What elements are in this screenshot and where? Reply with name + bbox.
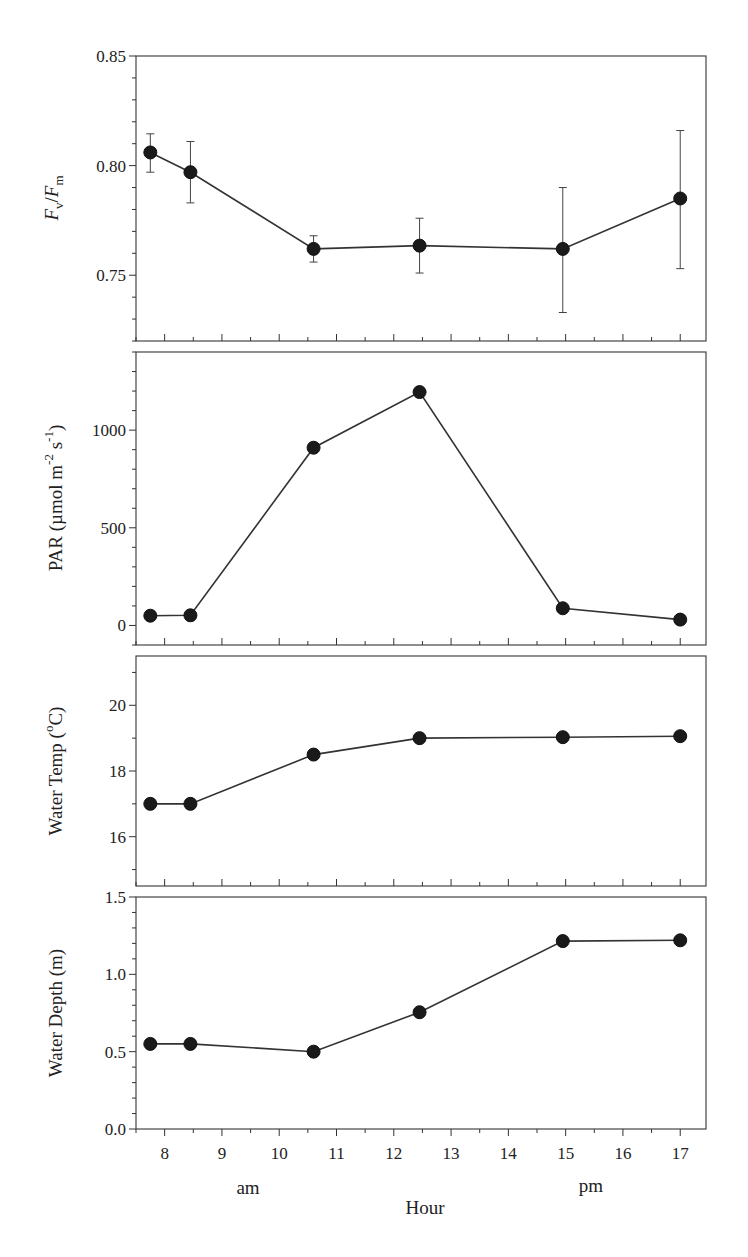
x-tick-label: 16 [614,1144,631,1163]
series-line [150,940,680,1051]
pm-label: pm [579,1175,604,1196]
data-point [413,732,426,745]
data-point [307,748,320,761]
y-tick-label: 1000 [92,421,126,440]
data-point [307,242,320,255]
y-tick-label: 0.0 [105,1120,126,1139]
panel-fvfm: 0.750.800.85 [96,47,706,341]
y-tick-label: 1.5 [105,888,126,907]
svg-text:PAR (µmol m-2 s-1): PAR (µmol m-2 s-1) [41,425,67,572]
series-line [150,392,680,620]
x-tick-label: 11 [328,1144,344,1163]
data-point [184,1037,197,1050]
x-tick-label: 13 [443,1144,460,1163]
ylabel-par: PAR (µmol m-2 s-1) [41,425,67,572]
ylabel-temp: Water Temp (oC) [41,707,67,836]
panel-par: 05001000 [92,352,706,645]
data-point [307,1045,320,1058]
data-point [184,797,197,810]
panel-temp: 161820 [109,656,706,886]
plot-frame [136,656,706,886]
data-point [184,166,197,179]
svg-text:Fv/Fm: Fv/Fm [41,175,66,221]
x-axis-title: Hour [405,1197,445,1218]
y-tick-label: 500 [101,519,127,538]
data-point [556,731,569,744]
svg-text:Water Depth (m): Water Depth (m) [45,949,67,1077]
panel-depth: 0.00.51.01.5891011121314151617 [105,888,706,1163]
svg-text:Water Temp (oC): Water Temp (oC) [41,707,67,836]
ylabel-depth: Water Depth (m) [45,949,67,1077]
x-tick-label: 8 [160,1144,169,1163]
am-label: am [236,1177,259,1198]
data-point [556,602,569,615]
data-point [144,609,157,622]
y-tick-label: 0.80 [96,157,126,176]
data-point [144,146,157,159]
figure: 0.750.800.85050010001618200.00.51.01.589… [0,0,748,1257]
data-point [413,239,426,252]
x-tick-label: 14 [500,1144,518,1163]
data-point [413,1006,426,1019]
series-line [150,153,680,249]
y-tick-label: 0 [118,616,127,635]
y-tick-label: 0.85 [96,47,126,66]
data-point [307,441,320,454]
y-tick-label: 0.75 [96,266,126,285]
x-tick-label: 15 [557,1144,574,1163]
data-point [413,386,426,399]
y-tick-label: 16 [109,828,126,847]
series-line [150,736,680,804]
data-point [674,192,687,205]
y-tick-label: 18 [109,762,126,781]
data-point [144,1037,157,1050]
x-tick-label: 12 [385,1144,402,1163]
data-point [184,609,197,622]
data-point [674,934,687,947]
data-point [556,935,569,948]
data-point [144,797,157,810]
y-tick-label: 0.5 [105,1043,126,1062]
x-tick-label: 17 [672,1144,690,1163]
plot-frame [136,56,706,341]
ylabel-fvfm: Fv/Fm [41,175,66,221]
y-tick-label: 20 [109,696,126,715]
data-point [556,242,569,255]
data-point [674,613,687,626]
y-tick-label: 1.0 [105,965,126,984]
x-tick-label: 10 [271,1144,288,1163]
panels: 0.750.800.85050010001618200.00.51.01.589… [92,47,706,1163]
x-tick-label: 9 [218,1144,227,1163]
data-point [674,730,687,743]
